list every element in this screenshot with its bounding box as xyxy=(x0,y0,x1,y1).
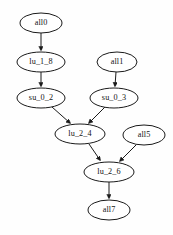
node-label-su_0_3: su_0_3 xyxy=(102,93,126,102)
node-label-lu_1_8: lu_1_8 xyxy=(29,57,52,66)
graph-node-all5[interactable]: all5 xyxy=(123,125,165,145)
graph-svg: all0lu_1_8su_0_2all1su_0_3lu_2_4all5lu_2… xyxy=(0,0,173,235)
graph-node-lu_2_4[interactable]: lu_2_4 xyxy=(55,124,105,144)
graph-node-all0[interactable]: all0 xyxy=(20,13,62,33)
graph-node-all1[interactable]: all1 xyxy=(97,52,137,72)
graph-node-lu_2_6[interactable]: lu_2_6 xyxy=(84,162,134,182)
node-label-all1: all1 xyxy=(111,57,124,66)
graph-node-su_0_2[interactable]: su_0_2 xyxy=(17,88,65,108)
graph-node-lu_1_8[interactable]: lu_1_8 xyxy=(17,52,65,72)
nodes-layer: all0lu_1_8su_0_2all1su_0_3lu_2_4all5lu_2… xyxy=(17,13,165,220)
node-label-all0: all0 xyxy=(35,18,48,27)
graph-edge-all1-to-su_0_3 xyxy=(115,72,116,86)
graph-node-all7[interactable]: all7 xyxy=(88,200,130,220)
graph-canvas: all0lu_1_8su_0_2all1su_0_3lu_2_4all5lu_2… xyxy=(0,0,173,235)
node-label-lu_2_4: lu_2_4 xyxy=(68,129,91,138)
node-label-lu_2_6: lu_2_6 xyxy=(97,167,120,176)
graph-edge-su_0_2-to-lu_2_4 xyxy=(52,107,70,123)
graph-node-su_0_3[interactable]: su_0_3 xyxy=(90,88,138,108)
node-label-all5: all5 xyxy=(138,130,151,139)
node-label-all7: all7 xyxy=(103,205,116,214)
graph-edge-all5-to-lu_2_6 xyxy=(120,145,136,161)
graph-edge-su_0_3-to-lu_2_4 xyxy=(89,107,105,123)
graph-edge-lu_2_4-to-lu_2_6 xyxy=(89,144,100,160)
node-label-su_0_2: su_0_2 xyxy=(29,93,53,102)
